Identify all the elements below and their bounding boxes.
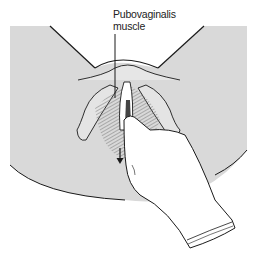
anatomical-illustration — [0, 0, 257, 259]
